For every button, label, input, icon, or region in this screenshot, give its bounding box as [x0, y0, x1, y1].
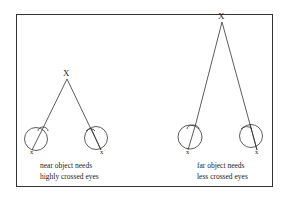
near-panel	[25, 79, 108, 151]
left-eye	[178, 125, 202, 149]
far-object-mark: X	[218, 11, 225, 21]
far-right-fovea-mark: x	[255, 148, 258, 155]
left-eye	[25, 128, 48, 151]
far-caption-line1: far object needs	[197, 161, 244, 171]
near-left-fovea-mark: x	[30, 148, 33, 155]
far-left-fovea-mark: x	[186, 148, 189, 155]
near-object-mark: X	[63, 68, 70, 78]
far-panel	[178, 22, 263, 150]
far-caption-line2: less crossed eyes	[197, 172, 248, 182]
near-caption-line2: highly crossed eyes	[40, 172, 99, 182]
right-eye	[85, 127, 108, 150]
near-right-fovea-mark: x	[100, 148, 103, 155]
near-caption-line1: near object needs	[40, 161, 92, 171]
